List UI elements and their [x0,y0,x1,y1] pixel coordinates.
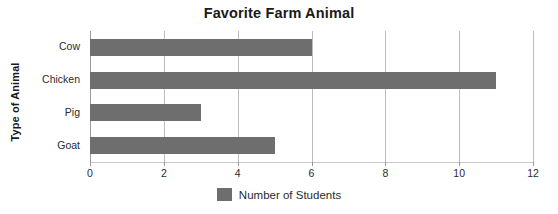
plot-area [90,31,533,162]
bar-row [90,31,533,64]
x-tick-label-6: 6 [297,167,327,179]
gridline-x-12 [533,31,534,162]
x-tickmark-12 [533,162,534,166]
bar-goat[interactable] [90,137,275,154]
bar-row [90,64,533,97]
y-axis-tick-labels: CowChickenPigGoat [20,31,86,162]
x-tickmark-8 [385,162,386,166]
x-tick-label-2: 2 [149,167,179,179]
x-tick-label-10: 10 [444,167,474,179]
bar-chicken[interactable] [90,72,496,89]
bar-cow[interactable] [90,39,312,56]
y-tick-label-chicken: Chicken [20,73,80,85]
bar-pig[interactable] [90,104,201,121]
bar-row [90,129,533,162]
chart-title: Favorite Farm Animal [0,5,558,21]
y-tick-label-pig: Pig [20,106,80,118]
x-tick-label-4: 4 [223,167,253,179]
x-axis-tick-labels: 024681012 [90,162,533,186]
y-tick-label-cow: Cow [20,40,80,52]
y-tick-label-goat: Goat [20,139,80,151]
x-tick-label-8: 8 [370,167,400,179]
x-tickmark-10 [459,162,460,166]
legend-swatch-number-of-students [217,188,232,201]
bar-chart: Favorite Farm Animal Type of Animal CowC… [0,0,558,214]
x-tickmark-0 [90,162,91,166]
legend-label-number-of-students: Number of Students [239,189,341,201]
x-tickmark-6 [312,162,313,166]
chart-legend: Number of Students [0,188,558,201]
x-tickmark-4 [238,162,239,166]
x-tick-label-0: 0 [75,167,105,179]
x-tick-label-12: 12 [518,167,548,179]
x-tickmark-2 [164,162,165,166]
bar-row [90,97,533,130]
